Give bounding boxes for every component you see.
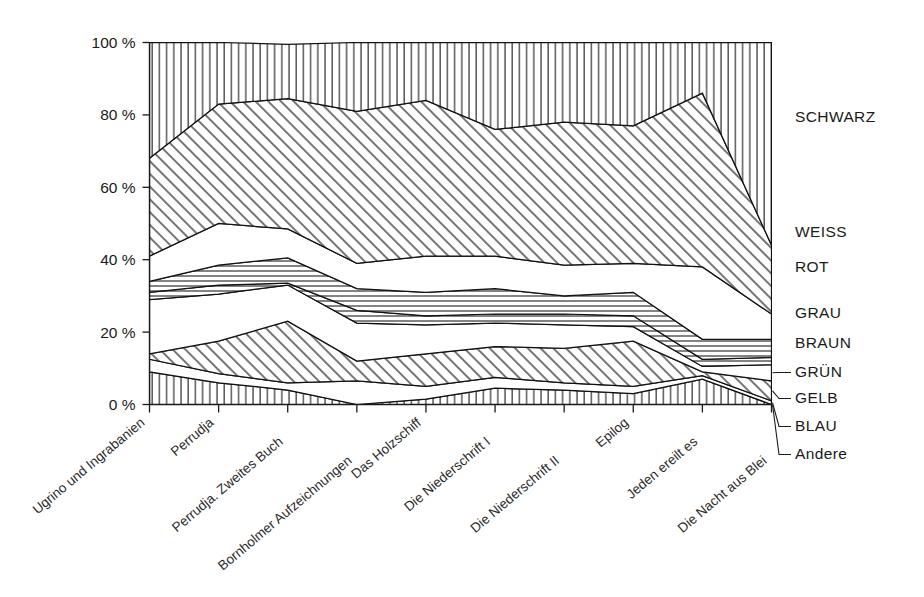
- legend-label-rot: ROT: [795, 258, 829, 275]
- x-tick-label: Perrudja: [168, 414, 217, 459]
- x-tick-label-group: Ugrino und IngrabanienPerrudjaPerrudja. …: [30, 414, 770, 573]
- y-tick-label: 0 %: [109, 396, 136, 413]
- legend-label-braun: BRAUN: [795, 334, 851, 351]
- legend-label-schwarz: SCHWARZ: [795, 108, 876, 125]
- x-tick-label: Epilog: [593, 415, 631, 451]
- x-tick-label: Die Niederschrift II: [467, 453, 562, 536]
- x-tick-label: Jeden ereilt es: [623, 434, 700, 502]
- legend-leader-line: [773, 391, 792, 399]
- y-tick-label: 60 %: [100, 179, 136, 196]
- legend-label-blau: BLAU: [795, 417, 837, 434]
- legend-label-grün: GRÜN: [795, 363, 842, 380]
- legend: SCHWARZWEISSROTGRAUBRAUNGRÜNGELBBLAUAnde…: [773, 108, 876, 462]
- y-tick-label: 20 %: [100, 324, 136, 341]
- x-tick-group: [150, 405, 772, 413]
- y-tick-label: 100 %: [92, 34, 136, 51]
- legend-label-weiss: WEISS: [795, 223, 847, 240]
- x-tick-label: Die Nacht aus Blei: [675, 453, 770, 536]
- y-tick-label: 40 %: [100, 251, 136, 268]
- legend-label-grau: GRAU: [795, 304, 841, 321]
- legend-label-gelb: GELB: [795, 389, 838, 406]
- x-tick-label: Ugrino und Ingrabanien: [30, 415, 148, 517]
- series-layers: [150, 43, 772, 405]
- x-tick-label: Das Holzschiff: [348, 415, 424, 482]
- area-chart: 0 %20 %40 %60 %80 %100 % Ugrino und Ingr…: [0, 0, 924, 597]
- x-tick-label: Die Niederschrift I: [401, 434, 493, 514]
- y-tick-label: 80 %: [100, 106, 136, 123]
- chart-container: 0 %20 %40 %60 %80 %100 % Ugrino und Ingr…: [0, 0, 924, 597]
- legend-label-andere: Andere: [795, 445, 847, 462]
- y-tick-group: 0 %20 %40 %60 %80 %100 %: [92, 34, 150, 413]
